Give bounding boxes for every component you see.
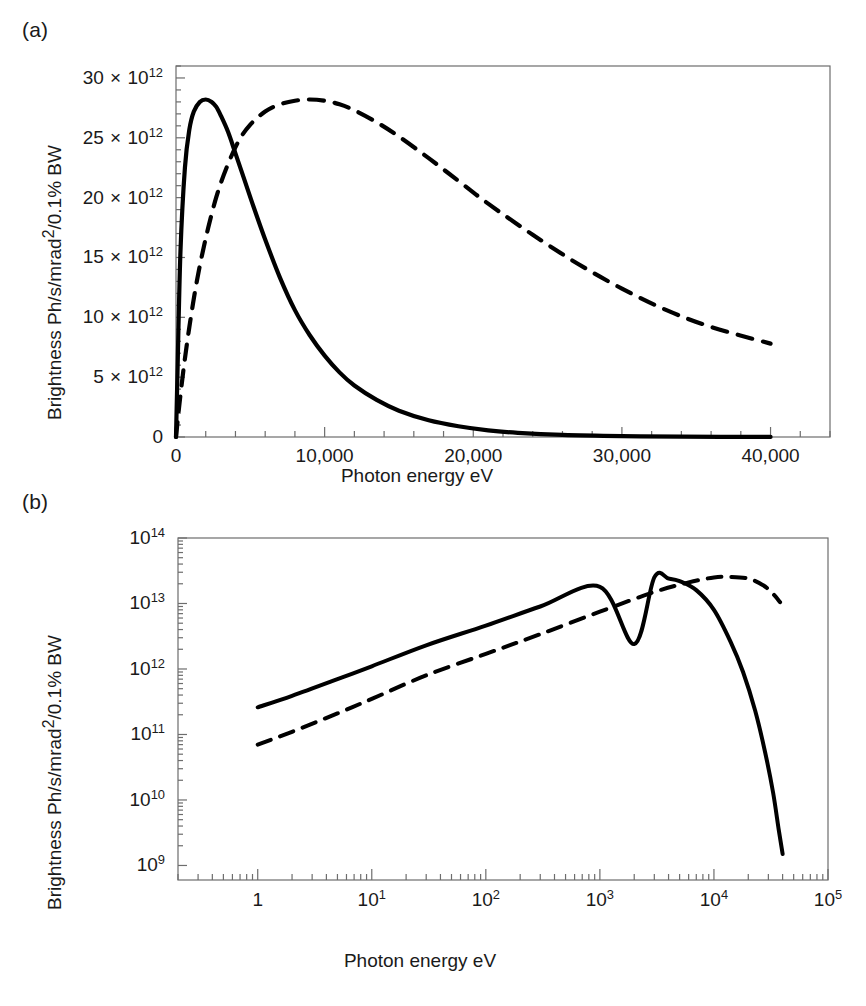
panel-b-x-tick-label: 104 <box>700 889 728 911</box>
panel-b-frame <box>178 538 828 880</box>
panel-a-x-tick-label: 20,000 <box>444 445 502 467</box>
panel-a-y-tick-label: 15 × 1012 <box>83 246 163 268</box>
panel-b-x-tick-label: 105 <box>814 889 842 911</box>
panel-a-y-tick-label: 25 × 1012 <box>83 127 163 149</box>
panel-b-y-tick-label: 1011 <box>130 723 165 745</box>
panel-b: (b) Brightness Ph/s/mrad2/0.1% BW Photon… <box>0 480 866 1006</box>
panel-a: (a) Brightness Ph/s/mrad2/0.1% BW Photon… <box>0 0 866 500</box>
panel-a-x-tick-label: 0 <box>171 445 182 467</box>
panel-a-x-tick-label: 40,000 <box>741 445 799 467</box>
panel-b-y-tick-label: 109 <box>137 854 165 876</box>
figure-container: (a) Brightness Ph/s/mrad2/0.1% BW Photon… <box>0 0 866 1006</box>
panel-a-solid-curve <box>176 100 771 437</box>
panel-b-dashed-curve <box>258 577 780 745</box>
panel-b-y-tick-label: 1014 <box>130 527 166 549</box>
panel-a-y-tick-label: 10 × 1012 <box>83 306 163 328</box>
panel-b-x-tick-label: 1 <box>252 889 263 911</box>
panel-a-frame <box>176 66 830 437</box>
panel-b-y-tick-label: 1013 <box>130 592 166 614</box>
panel-b-x-tick-label: 102 <box>472 889 500 911</box>
panel-a-y-tick-label: 5 × 1012 <box>93 366 163 388</box>
panel-a-dashed-curve <box>176 100 771 437</box>
panel-b-y-tick-label: 1012 <box>130 658 166 680</box>
panel-a-y-tick-label: 30 × 1012 <box>83 67 163 89</box>
panel-a-y-tick-label: 0 <box>152 426 163 448</box>
panel-a-x-tick-label: 30,000 <box>593 445 651 467</box>
panel-b-x-tick-label: 103 <box>586 889 614 911</box>
panel-a-y-tick-label: 20 × 1012 <box>83 187 163 209</box>
panel-a-x-tick-label: 10,000 <box>296 445 354 467</box>
panel-b-x-tick-label: 101 <box>358 889 386 911</box>
panel-b-y-tick-label: 1010 <box>130 789 166 811</box>
